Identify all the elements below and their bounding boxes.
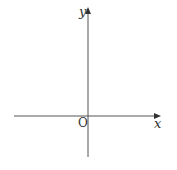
y-axis <box>85 7 91 157</box>
origin-label: O <box>78 116 88 130</box>
y-axis-label: y <box>78 4 87 19</box>
coordinate-plane: y x O <box>0 0 177 170</box>
x-axis-label: x <box>154 116 162 131</box>
